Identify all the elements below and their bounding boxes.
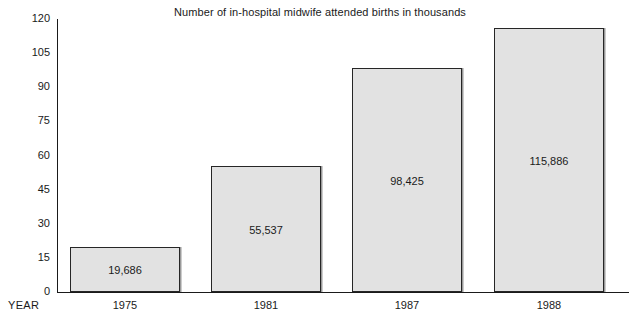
bar-chart: Number of in-hospital midwife attended b… [0,0,640,324]
y-axis-tick-15: 15 [0,252,50,263]
chart-title: Number of in-hospital midwife attended b… [0,6,640,18]
y-axis-tick-label: 120 [0,13,50,24]
y-axis-tick-label: 90 [0,81,50,92]
bar-value-label: 98,425 [353,175,461,187]
bar-1988[interactable]: 115,886 [494,28,604,292]
y-axis-tick-90: 90 [0,81,50,92]
y-axis-tick-label: 75 [0,115,50,126]
y-axis-tick-label: 0 [0,286,50,297]
x-axis-label-1987: 1987 [352,299,462,311]
y-axis-tick-label: 105 [0,47,50,58]
y-axis-tick-45: 45 [0,184,50,195]
y-axis-tick-0: 0 [0,286,50,297]
y-axis-tick-label: 15 [0,252,50,263]
bar-value-label: 115,886 [495,155,603,167]
y-axis-tick-label: 45 [0,184,50,195]
y-axis-tick-120: 120 [0,13,50,24]
y-axis-tick-75: 75 [0,115,50,126]
bar-1987[interactable]: 98,425 [352,68,462,292]
y-axis-tick-60: 60 [0,150,50,161]
y-axis-tick-30: 30 [0,218,50,229]
bar-1975[interactable]: 19,686 [70,247,180,292]
bar-value-label: 19,686 [71,264,179,276]
bar-1981[interactable]: 55,537 [211,166,321,292]
plot-area: 19,68655,53798,425115,886 [57,19,640,292]
y-axis-tick-label: 60 [0,150,50,161]
bar-value-label: 55,537 [212,224,320,236]
y-axis-tick-105: 105 [0,47,50,58]
x-axis-label-1988: 1988 [494,299,604,311]
x-axis-label-1981: 1981 [211,299,321,311]
year-axis-caption: YEAR [8,299,39,311]
x-axis-line [57,292,629,293]
x-axis-label-1975: 1975 [70,299,180,311]
y-axis-tick-label: 30 [0,218,50,229]
